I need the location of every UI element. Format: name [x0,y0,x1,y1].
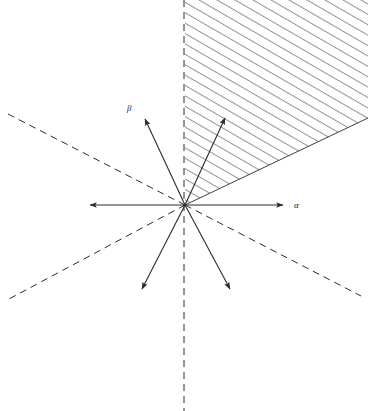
dashed-diagonal-upper-left [6,113,185,205]
beta-axis-label: β [126,103,132,113]
alpha-axis-label: α [294,200,299,210]
dashed-diagonal-lower-right [185,205,361,296]
figure-root: α β [0,0,368,411]
dashed-diagonal-lower-left [9,205,185,299]
ray-lower-right [185,205,230,289]
beta-axis-positive [145,119,185,205]
ray-lower-left [142,205,185,289]
hatched-cone-fill [185,0,368,205]
diagram-canvas: α β [0,0,368,411]
hatched-cone-region [185,0,368,205]
